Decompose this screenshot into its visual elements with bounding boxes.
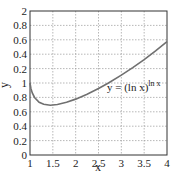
y-tick-label: 0.2 <box>13 135 27 147</box>
y-axis-ticks: 00.20.40.60.810.20.40.60.82 <box>13 5 27 161</box>
y-tick-label: 0.8 <box>13 19 27 31</box>
chart: 11.522.533.54 00.20.40.60.810.20.40.60.8… <box>0 0 177 183</box>
y-tick-label: 0 <box>22 149 28 161</box>
y-tick-label: 0.6 <box>13 34 27 46</box>
y-tick-label: 1 <box>22 77 28 89</box>
y-tick-label: 2 <box>22 5 28 17</box>
x-tick-label: 3.5 <box>137 157 151 169</box>
y-tick-label: 0.4 <box>13 120 27 132</box>
y-tick-label: 0.4 <box>13 48 27 60</box>
y-tick-label: 0.2 <box>13 63 27 75</box>
curve-annotation: y = (ln x)ln x <box>107 79 161 94</box>
x-tick-label: 1 <box>27 157 33 169</box>
x-tick-label: 3 <box>119 157 125 169</box>
x-axis-label: x <box>95 160 101 174</box>
y-axis-label: y <box>0 82 11 88</box>
y-tick-label: 0.8 <box>13 91 27 103</box>
x-tick-label: 1.5 <box>46 157 60 169</box>
y-tick-label: 0.6 <box>13 106 27 118</box>
x-tick-label: 2 <box>73 157 79 169</box>
x-tick-label: 4 <box>164 157 170 169</box>
